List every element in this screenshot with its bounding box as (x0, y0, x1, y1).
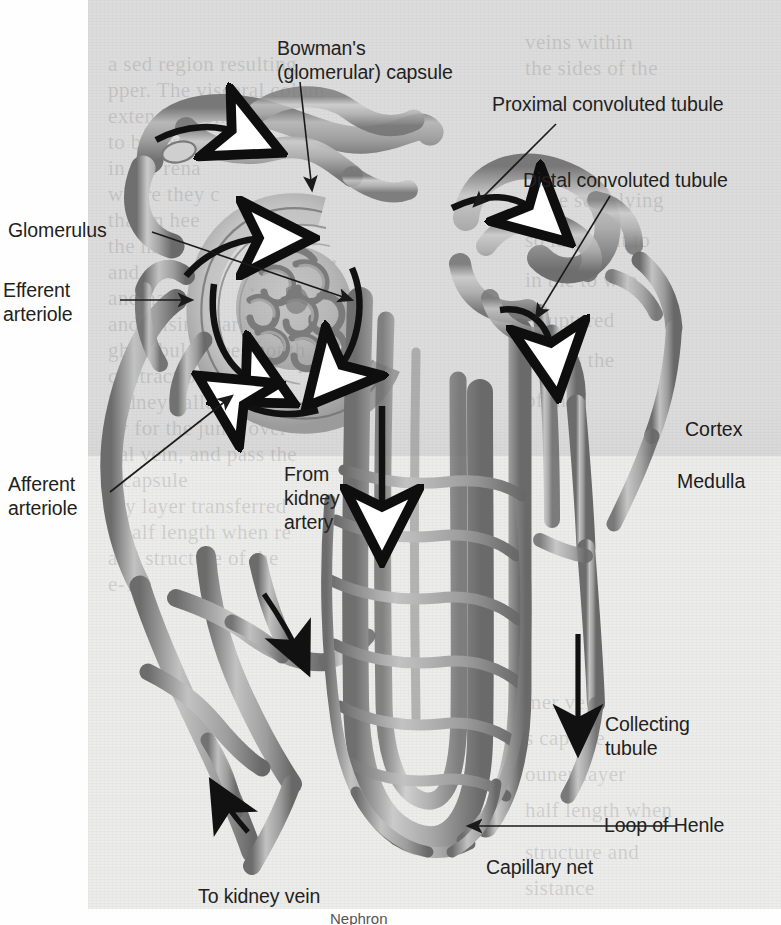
label-distal-convoluted-tubule: Distal convoluted tubule (523, 168, 728, 192)
label-medulla: Medulla (677, 470, 745, 493)
label-afferent-arteriole: Afferent arteriole (8, 472, 78, 520)
glomerulus (236, 246, 352, 370)
nephron-illustration (0, 0, 781, 925)
label-efferent-arteriole: Efferent arteriole (3, 278, 73, 326)
label-loop-of-henle: Loop of Henle (604, 813, 724, 837)
label-cortex: Cortex (685, 418, 742, 441)
figure-caption: Nephron (330, 910, 490, 925)
figure-canvas: a sed region resultingpper. The visceral… (0, 0, 781, 925)
label-capillary-net: Capillary net (486, 855, 593, 879)
label-bowmans-capsule: Bowman's (glomerular) capsule (277, 36, 453, 84)
label-from-kidney-artery: From kidney artery (284, 462, 340, 534)
label-proximal-convoluted-tubule: Proximal convoluted tubule (492, 92, 724, 116)
label-to-kidney-vein: To kidney vein (198, 884, 320, 908)
label-collecting-tubule: Collecting tubule (605, 712, 690, 760)
label-glomerulus: Glomerulus (8, 218, 107, 242)
